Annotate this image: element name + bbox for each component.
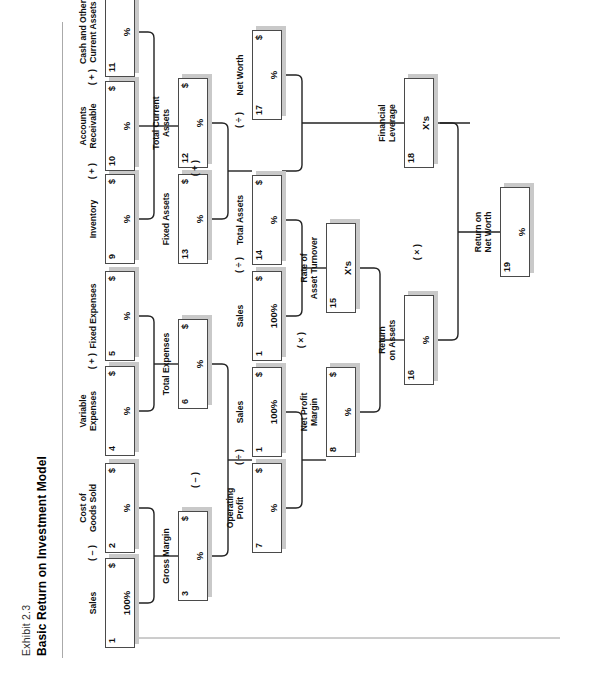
node-value: X's	[342, 224, 353, 312]
node-number: 6	[180, 399, 190, 404]
node-box: 10 $ %	[105, 81, 135, 171]
node-value: %	[194, 175, 205, 263]
node-gross-margin[interactable]: 3 $ % Gross Margin	[178, 511, 208, 601]
node-accounts-receivable[interactable]: 10 $ % Accounts Receivable	[105, 81, 135, 171]
node-value: X's	[420, 79, 431, 167]
operator-divide-3: ( ÷ )	[234, 100, 244, 140]
node-box: 7 $ %	[252, 463, 282, 553]
node-caption: Total Expenses	[162, 299, 172, 429]
node-caption: Gross Margin	[162, 491, 172, 621]
node-return-on-assets[interactable]: 16 % Return on Assets	[404, 295, 434, 385]
node-box: 11 $ %	[105, 0, 135, 77]
node-inventory[interactable]: 9 $ % Inventory	[105, 174, 135, 264]
node-box: 1 $ 100%	[105, 558, 135, 648]
node-financial-leverage[interactable]: 18 X's Financial Leverage	[404, 78, 434, 168]
node-number: 5	[107, 351, 117, 356]
node-unit: $	[180, 516, 190, 521]
node-number: 17	[254, 105, 264, 115]
operator-divide-2: ( ÷ )	[234, 245, 244, 285]
node-value: %	[121, 175, 132, 263]
node-number: 9	[107, 254, 117, 259]
operator-divide-1: ( ÷ )	[234, 437, 244, 477]
node-number: 12	[180, 153, 190, 163]
node-value: %	[121, 464, 132, 552]
node-value: %	[420, 296, 431, 384]
node-value: 100%	[121, 559, 132, 647]
node-number: 16	[406, 370, 416, 380]
node-number: 13	[180, 249, 190, 259]
node-unit: $	[328, 372, 338, 377]
node-caption: Fixed Assets	[162, 154, 172, 284]
node-box: 18 X's	[404, 78, 434, 168]
node-value: %	[268, 31, 279, 119]
node-value: %	[516, 188, 527, 276]
operator-plus-4: ( + )	[190, 148, 200, 188]
node-box: 6 $ %	[178, 319, 208, 409]
node-value: %	[121, 272, 132, 360]
node-net-worth[interactable]: 17 $ % Net Worth	[252, 30, 282, 120]
node-value: %	[121, 367, 132, 455]
node-number: 1	[107, 638, 117, 643]
node-number: 7	[254, 543, 264, 548]
node-value: %	[342, 368, 353, 456]
node-variable-expenses[interactable]: 4 $ % Variable Expenses	[105, 366, 135, 456]
node-number: 18	[406, 153, 416, 163]
node-unit: $	[254, 180, 264, 185]
node-unit: $	[107, 563, 117, 568]
node-number: 8	[328, 447, 338, 452]
node-number: 14	[254, 250, 264, 260]
node-value: %	[121, 82, 132, 170]
node-sales-1[interactable]: 1 $ 100% Sales	[105, 558, 135, 648]
node-value: 100%	[268, 368, 279, 456]
node-unit: $	[254, 35, 264, 40]
node-unit: $	[107, 276, 117, 281]
node-box: 9 $ %	[105, 174, 135, 264]
node-unit: $	[107, 371, 117, 376]
node-box: 5 $ %	[105, 271, 135, 361]
node-fixed-expenses[interactable]: 5 $ % Fixed Expenses	[105, 271, 135, 361]
node-number: 19	[502, 262, 512, 272]
node-unit: $	[254, 372, 264, 377]
node-unit: $	[254, 276, 264, 281]
node-caption: Rate of Asset Turnover	[300, 203, 319, 333]
node-rate-of-asset-turnover[interactable]: 15 X's Rate of Asset Turnover	[326, 223, 356, 313]
node-caption: Return on Assets	[378, 275, 397, 405]
node-cash-and-other-current-assets[interactable]: 11 $ % Cash and Other Current Assets	[105, 0, 135, 77]
node-net-profit-margin[interactable]: 8 $ % Net Profit Margin	[326, 367, 356, 457]
node-number: 1	[254, 447, 264, 452]
rotated-exhibit-wrapper: Exhibit 2.3 Basic Return on Investment M…	[0, 0, 604, 678]
node-box: 4 $ %	[105, 366, 135, 456]
operator-plus-3: ( + )	[87, 57, 97, 97]
node-box: 17 $ %	[252, 30, 282, 120]
node-box: 2 $ %	[105, 463, 135, 553]
node-caption: Net Profit Margin	[300, 347, 319, 477]
node-number: 10	[107, 156, 117, 166]
operator-minus-1: ( – )	[87, 533, 97, 573]
node-box: 3 $ %	[178, 511, 208, 601]
node-value: %	[121, 0, 132, 76]
operator-multiply-1: ( × )	[296, 320, 306, 360]
node-total-assets[interactable]: 14 $ % Total Assets	[252, 175, 282, 265]
node-value: 100%	[268, 272, 279, 360]
node-operating-profit[interactable]: 7 $ % Operating Profit	[252, 463, 282, 553]
node-cost-of-goods-sold[interactable]: 2 $ % Cost of Goods Sold	[105, 463, 135, 553]
node-number: 4	[107, 446, 117, 451]
node-box: 15 X's	[326, 223, 356, 313]
node-number: 2	[107, 543, 117, 548]
node-sales-3[interactable]: 1 $ 100% Sales	[252, 271, 282, 361]
operator-plus-1: ( + )	[87, 341, 97, 381]
node-unit: $	[180, 83, 190, 88]
operator-multiply-2: ( × )	[412, 232, 422, 272]
node-caption: Return on Net Worth	[474, 167, 493, 297]
node-sales-2[interactable]: 1 $ 100% Sales	[252, 367, 282, 457]
node-total-expenses[interactable]: 6 $ % Total Expenses	[178, 319, 208, 409]
node-box: 1 $ 100%	[252, 367, 282, 457]
node-box: 8 $ %	[326, 367, 356, 457]
node-return-on-net-worth[interactable]: 19 % Return on Net Worth	[500, 187, 530, 277]
node-number: 15	[328, 298, 338, 308]
node-value: %	[268, 176, 279, 264]
node-caption: Financial Leverage	[378, 58, 397, 188]
node-value: %	[268, 464, 279, 552]
exhibit-page: Exhibit 2.3 Basic Return on Investment M…	[0, 0, 604, 678]
node-number: 11	[107, 62, 117, 72]
